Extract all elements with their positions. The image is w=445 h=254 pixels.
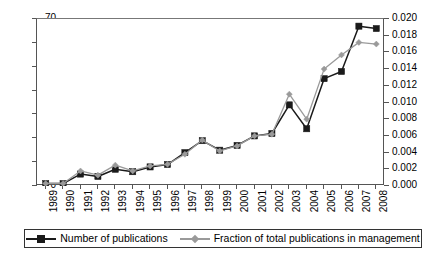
y-axis-right-tick-label: 0.016 — [392, 46, 438, 56]
x-axis-tick-label: 1997 — [188, 190, 198, 212]
y-axis-right-tick-label: 0.008 — [392, 113, 438, 123]
y-axis-right-tick-label: 0.014 — [392, 63, 438, 73]
x-axis-tick-label: 2004 — [310, 190, 320, 212]
x-axis-tick-label: 2003 — [292, 190, 302, 212]
y-axis-right-tick-label: 0.020 — [392, 13, 438, 23]
diamond-marker-icon — [180, 233, 210, 244]
series-layer — [37, 19, 385, 186]
x-axis-tick-label: 1992 — [101, 190, 111, 212]
y-axis-right-tick-label: 0.004 — [392, 147, 438, 157]
x-axis-tick-label: 2006 — [345, 190, 355, 212]
plot-area — [36, 18, 384, 185]
legend-label-number-of-publications: Number of publications — [60, 233, 167, 244]
legend-entry-number-of-publications: Number of publications — [20, 233, 173, 244]
chart-container: 010203040506070 0.0000.0020.0040.0060.00… — [0, 0, 445, 254]
x-axis-tick-label: 1994 — [136, 190, 146, 212]
square-marker-icon — [26, 233, 56, 244]
y-axis-right-tick-label: 0.006 — [392, 130, 438, 140]
y-axis-right-tick-label: 0.018 — [392, 30, 438, 40]
x-axis-tick-label: 1998 — [205, 190, 215, 212]
x-axis-tick-label: 1990 — [66, 190, 76, 212]
x-axis-tick-label: 1991 — [84, 190, 94, 212]
x-axis-tick-label: 2005 — [327, 190, 337, 212]
x-axis-tick-label: 2000 — [240, 190, 250, 212]
series-2 — [43, 39, 380, 186]
x-axis-tick-label: 2002 — [275, 190, 285, 212]
x-axis-tick-label: 1996 — [171, 190, 181, 212]
y-axis-right-tick-label: 0.000 — [392, 180, 438, 190]
legend-label-fraction-of-total-publications: Fraction of total publications in manage… — [214, 233, 420, 244]
y-axis-right-tick-label: 0.010 — [392, 97, 438, 107]
x-axis-tick-label: 1995 — [153, 190, 163, 212]
x-axis-tick-label: 1999 — [223, 190, 233, 212]
chart-legend: Number of publications Fraction of total… — [24, 229, 422, 248]
x-axis-tick-label: 2001 — [258, 190, 268, 212]
y-axis-right-tick-label: 0.002 — [392, 163, 438, 173]
x-axis-tick-label: 1989 — [49, 190, 59, 212]
x-axis-tick-label: 2007 — [362, 190, 372, 212]
series-1 — [43, 23, 380, 186]
x-axis-tick-label: 1993 — [118, 190, 128, 212]
legend-entry-fraction-of-total-publications: Fraction of total publications in manage… — [174, 233, 426, 244]
y-axis-right-tick-label: 0.012 — [392, 80, 438, 90]
x-axis-tick-label: 2008 — [379, 190, 389, 212]
